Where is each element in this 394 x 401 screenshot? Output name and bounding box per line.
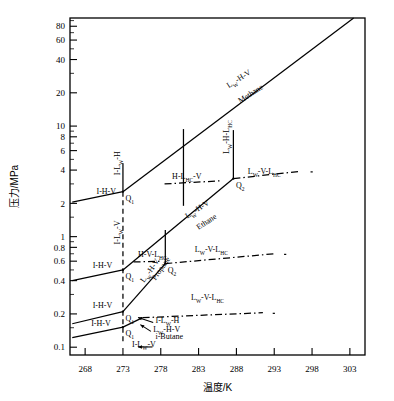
y-tick-label: 40 [56, 55, 66, 65]
y-tick-label: 0.4 [54, 276, 66, 286]
curve-ethane-i-h-v [72, 270, 123, 281]
x-tick-label: 293 [267, 364, 281, 374]
dashdot-tail-dot-0 [311, 171, 313, 172]
quadruple-point-i-butane-q1: Q1 [125, 329, 134, 340]
curve-methane-lw-h-v [123, 18, 354, 192]
y-tick-label: 2 [61, 199, 66, 209]
quadruple-point-marker [164, 263, 166, 265]
annotation-methane-i-h-v: I-H-V [96, 187, 116, 196]
annotation-propane-lw-v-lhc: LW-V-LHC [195, 245, 228, 256]
x-tick-label: 303 [343, 364, 357, 374]
y-tick-label: 0.2 [54, 309, 65, 319]
x-tick-label: 298 [305, 364, 319, 374]
curve-i-butane-i-h-v [72, 327, 123, 338]
quadruple-point-propane-q2: Q2 [168, 266, 177, 277]
quadruple-point-marker [122, 269, 124, 271]
annotation-methane-name: Methane [236, 82, 265, 105]
x-axis-title: 温度/K [203, 381, 233, 393]
quadruple-point-marker [122, 326, 124, 328]
y-tick-label: 20 [56, 88, 66, 98]
y-axis-title: 压力/MPa [8, 164, 20, 208]
y-tick-label: 1 [61, 232, 66, 242]
dashdot-tail-dot-2 [273, 313, 275, 314]
phase-diagram-svg: 0.10.20.40.60.81246810204060802682732782… [0, 0, 394, 401]
y-tick-label: 0.8 [54, 243, 66, 253]
y-tick-label: 0.1 [54, 342, 65, 352]
x-tick-label: 273 [116, 364, 130, 374]
y-tick-label: 80 [56, 21, 66, 31]
y-tick-label: 60 [56, 35, 66, 45]
y-tick-label: 4 [61, 165, 66, 175]
x-tick-label: 283 [192, 364, 206, 374]
annotation-ethane-i-h-v: I-H-V [93, 261, 113, 270]
annotation-ethane-lw-h-lhc: LW-H-LHC [222, 120, 233, 154]
annotation-methane-i-lw-h: I-LW-H [113, 151, 124, 175]
quadruple-point-methane-q1: Q1 [125, 194, 134, 205]
dashdot-tail-dot-1 [284, 254, 286, 255]
quadruple-point-propane-q1: Q1 [125, 314, 134, 325]
y-tick-label: 0.6 [54, 256, 66, 266]
annotation-ibutane-i-h-v: I-H-V [91, 319, 111, 328]
quadruple-point-marker [232, 177, 234, 179]
y-tick-label: 8 [61, 132, 66, 142]
quadruple-point-marker [122, 191, 124, 193]
x-tick-label: 288 [230, 364, 244, 374]
y-tick-label: 6 [61, 146, 66, 156]
annotation-ibutane-lw-v-lhc: LW-V-LHC [191, 293, 224, 304]
quadruple-point-marker [122, 310, 124, 312]
annotation-ibutane-i-lw-v: I-LW-V [132, 340, 156, 351]
quadruple-point-ethane-q1: Q1 [125, 272, 134, 283]
annotation-propane-i-h-v: I-H-V [93, 301, 113, 310]
chart-root: 0.10.20.40.60.81246810204060802682732782… [0, 0, 394, 401]
quadruple-point-ethane-q2: Q2 [236, 181, 245, 192]
annotation-ibutane-name: i-Butane [155, 332, 183, 341]
annotation-methane-i-lw-v: I-LW-V [113, 220, 124, 244]
x-tick-label: 278 [154, 364, 168, 374]
y-tick-label: 10 [56, 121, 66, 131]
annotation-ethane-lw-v-lhc: LW-V-LHC [248, 167, 281, 178]
annotation-ethane-name: Ethane [195, 212, 219, 232]
x-tick-label: 268 [78, 364, 92, 374]
